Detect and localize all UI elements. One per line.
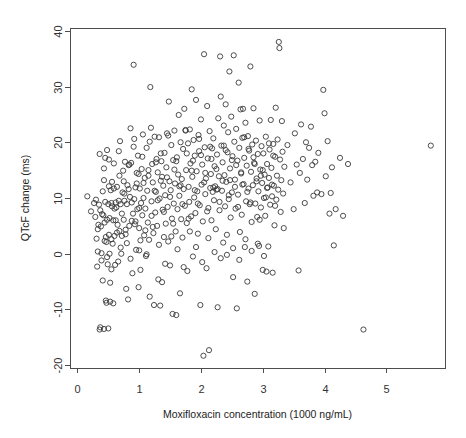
scatter-plot-figure: -20-10010203040 012345 QTcF change (ms) …: [0, 0, 466, 438]
y-tick-label: 0: [52, 251, 64, 257]
y-tick-label: 40: [52, 25, 64, 37]
plot-canvas: -20-10010203040 012345 QTcF change (ms) …: [0, 0, 466, 438]
y-tick-label: -10: [52, 302, 64, 318]
x-tick-label: 3: [260, 383, 266, 395]
y-tick-label: 10: [52, 192, 64, 204]
x-tick-label: 0: [74, 383, 80, 395]
y-tick-label: -20: [52, 358, 64, 374]
x-tick-label: 4: [322, 383, 328, 395]
y-tick-label: 30: [52, 81, 64, 93]
x-tick-label: 5: [383, 383, 389, 395]
x-tick-label: 1: [136, 383, 142, 395]
y-axis-title: QTcF change (ms): [19, 155, 31, 241]
y-tick-label: 20: [52, 136, 64, 148]
x-tick-label: 2: [198, 383, 204, 395]
x-axis-title: Moxifloxacin concentration (1000 ng/mL): [163, 408, 352, 420]
